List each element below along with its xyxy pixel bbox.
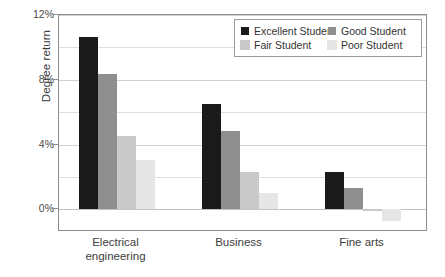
x-label-line: Electrical: [56, 236, 176, 250]
bar-excellent-student-fine-arts: [325, 172, 344, 209]
legend-label-good-student: Good Student: [341, 24, 406, 38]
bar-excellent-student-electrical-engineering: [79, 37, 98, 209]
legend-swatch-good-student: [328, 27, 336, 35]
bar-fair-student-electrical-engineering: [117, 136, 136, 210]
bar-poor-student-business: [259, 193, 278, 209]
x-axis-label-electrical-engineering: Electricalengineering: [56, 236, 176, 263]
legend-item-poor-student: Poor Student: [328, 38, 415, 52]
bar-good-student-electrical-engineering: [98, 74, 117, 209]
bar-good-student-fine-arts: [344, 188, 363, 209]
legend: Excellent Student Good Student Fair Stud…: [234, 19, 422, 57]
legend-swatch-poor-student: [328, 41, 336, 49]
x-axis-label-fine-arts: Fine arts: [302, 236, 422, 250]
legend-item-good-student: Good Student: [328, 24, 415, 38]
x-label-line: Business: [179, 236, 299, 250]
legend-label-fair-student: Fair Student: [254, 38, 311, 52]
x-label-line: Fine arts: [302, 236, 422, 250]
y-tick-label: 8%: [10, 73, 54, 85]
legend-item-excellent-student: Excellent Student: [241, 24, 328, 38]
legend-row: Excellent Student Good Student: [241, 24, 415, 38]
legend-label-excellent-student: Excellent Student: [254, 24, 336, 38]
legend-swatch-excellent-student: [241, 27, 249, 35]
legend-label-poor-student: Poor Student: [341, 38, 402, 52]
bar-poor-student-electrical-engineering: [136, 160, 155, 209]
bar-fair-student-business: [240, 172, 259, 209]
y-tick-label: 12%: [10, 8, 54, 20]
y-tick-label: 0%: [10, 202, 54, 214]
x-axis-label-business: Business: [179, 236, 299, 250]
y-tick-label: 4%: [10, 138, 54, 150]
bar-poor-student-fine-arts: [382, 209, 401, 220]
x-label-line: engineering: [56, 250, 176, 264]
bar-good-student-business: [221, 131, 240, 210]
legend-swatch-fair-student: [241, 41, 249, 49]
bar-excellent-student-business: [202, 104, 221, 209]
bar-chart: Degree return 0%4%8%12% Electricalengine…: [0, 0, 445, 277]
legend-row: Fair Student Poor Student: [241, 38, 415, 52]
legend-item-fair-student: Fair Student: [241, 38, 328, 52]
bar-fair-student-fine-arts: [363, 209, 382, 211]
